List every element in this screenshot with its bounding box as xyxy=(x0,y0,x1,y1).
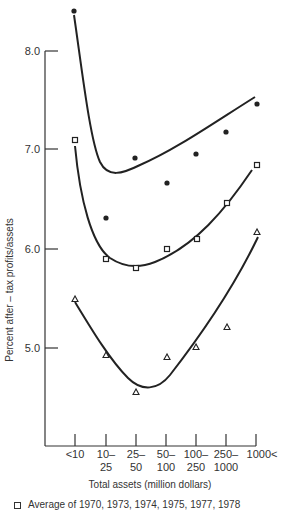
y-tick-label: 5.0 xyxy=(25,342,40,354)
x-tick-label: 50– xyxy=(157,448,176,460)
y-tick-label: 8.0 xyxy=(25,45,40,57)
x-tick-label: 100 xyxy=(157,461,175,473)
data-point xyxy=(164,354,170,360)
data-point xyxy=(223,129,228,134)
data-point xyxy=(254,101,259,106)
data-point xyxy=(73,138,78,143)
series-squares-markers xyxy=(73,138,260,271)
data-point xyxy=(165,247,170,252)
fit-curve-circles xyxy=(74,15,255,173)
y-tick-label: 6.0 xyxy=(25,243,40,255)
data-point xyxy=(193,151,198,156)
y-tick-label: 7.0 xyxy=(25,143,40,155)
x-tick-label: 25– xyxy=(127,448,146,460)
y-tick-labels: 8.0 7.0 6.0 5.0 xyxy=(25,45,40,354)
y-ticks xyxy=(45,51,58,348)
data-point xyxy=(103,215,108,220)
data-point xyxy=(224,324,230,330)
x-tick-label: 250 xyxy=(187,461,205,473)
x-tick-label: 10– xyxy=(97,448,116,460)
data-point xyxy=(225,201,230,206)
series-circles-markers xyxy=(71,8,259,220)
x-axis-title: Total assets (million dollars) xyxy=(89,479,212,490)
data-point xyxy=(71,8,76,13)
x-tick-label: 1000 xyxy=(214,461,238,473)
data-point xyxy=(193,344,199,350)
chart-figure: 8.0 7.0 6.0 5.0 <10 10– 25 25– 50 50– 10… xyxy=(0,0,293,519)
x-tick-label: 25 xyxy=(100,461,112,473)
square-marker-icon xyxy=(14,502,21,509)
data-point xyxy=(195,237,200,242)
x-tick-labels: <10 10– 25 25– 50 50– 100 100– 250 250– … xyxy=(66,448,278,473)
series-triangles-markers xyxy=(72,229,260,395)
data-point xyxy=(164,180,169,185)
fit-curve-triangles xyxy=(75,237,258,387)
data-point xyxy=(255,163,260,168)
data-point xyxy=(72,296,78,302)
x-tick-label: 100– xyxy=(184,448,209,460)
data-point xyxy=(134,266,139,271)
x-tick-label: 50 xyxy=(130,461,142,473)
data-point xyxy=(132,155,137,160)
x-tick-label: 1000< xyxy=(247,448,278,460)
data-point xyxy=(133,389,139,395)
legend: Average of 1970, 1973, 1974, 1975, 1977,… xyxy=(14,499,240,510)
x-ticks xyxy=(75,434,256,446)
x-tick-label: <10 xyxy=(66,448,85,460)
data-point xyxy=(254,229,260,235)
y-axis-title: Percent after – tax profits/assets xyxy=(4,218,15,361)
legend-label: Average of 1970, 1973, 1974, 1975, 1977,… xyxy=(28,499,240,510)
x-tick-label: 250– xyxy=(214,448,239,460)
data-point xyxy=(104,257,109,262)
